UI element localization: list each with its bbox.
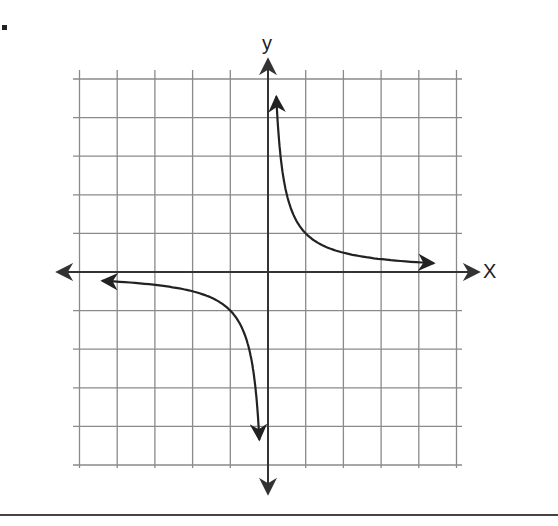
x-axis-label: X — [483, 261, 496, 281]
y-axis-label: y — [262, 33, 272, 53]
bottom-divider — [0, 514, 558, 516]
curve-branch-positive — [276, 97, 434, 264]
curve-branch-negative — [102, 281, 259, 440]
axes — [57, 59, 479, 494]
hyperbola-graph — [0, 0, 558, 526]
